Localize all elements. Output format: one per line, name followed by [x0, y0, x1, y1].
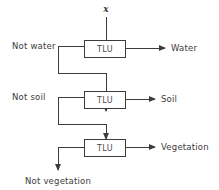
tlu-2-right-label: Soil: [161, 94, 177, 104]
tlu-3-negative-output-wire: [58, 147, 84, 170]
input-x-label: x: [102, 4, 109, 14]
diagram-canvas: x TLU TLU TLU Not water Water Not soil S…: [0, 0, 219, 190]
tlu-1-right-label: Water: [171, 43, 197, 53]
tlu-1-left-label: Not water: [12, 41, 56, 51]
tlu-2-label: TLU: [96, 96, 113, 105]
tlu-cascade-diagram: x TLU TLU TLU Not water Water Not soil S…: [0, 0, 219, 190]
tlu-3-right-label: Vegetation: [161, 142, 209, 152]
tlu-2-left-label: Not soil: [12, 92, 46, 102]
final-output-label: Not vegetation: [25, 176, 91, 186]
tlu-1-label: TLU: [96, 45, 113, 54]
tlu-3-label: TLU: [96, 144, 113, 153]
